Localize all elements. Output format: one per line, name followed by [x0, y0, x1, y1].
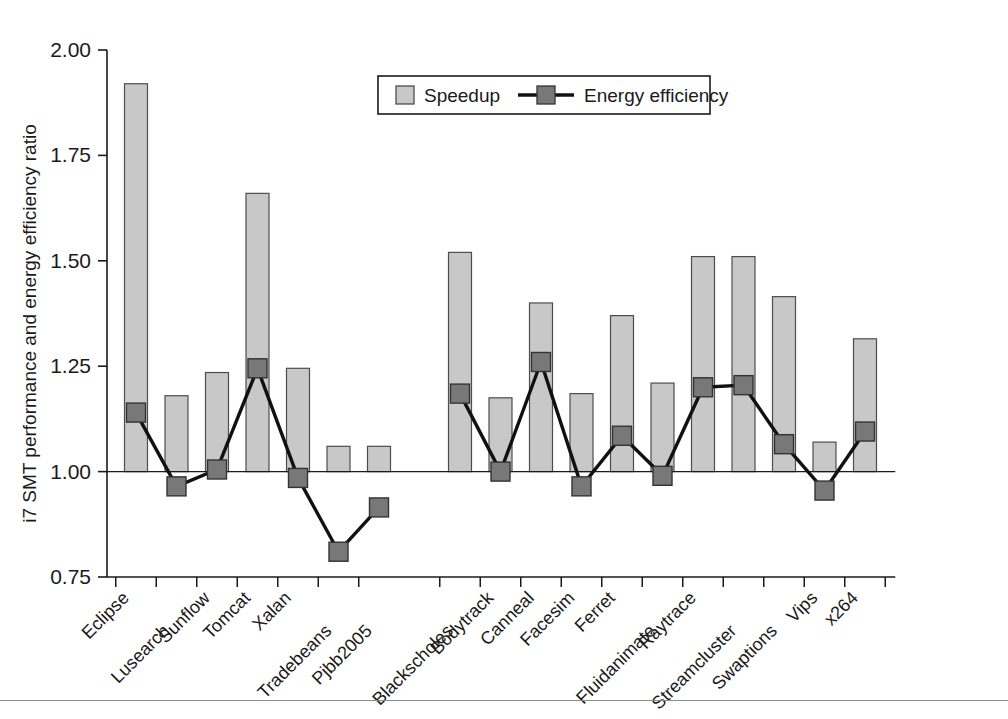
energy-efficiency-marker	[208, 460, 227, 479]
energy-efficiency-marker	[613, 426, 632, 445]
y-axis-tick-label: 1.50	[50, 249, 91, 272]
y-axis-tick-label: 1.25	[50, 354, 91, 377]
legend-energy-swatch	[537, 86, 555, 104]
energy-efficiency-marker	[127, 403, 146, 422]
speedup-bar	[206, 373, 229, 472]
y-axis-tick-label: 2.00	[50, 38, 91, 61]
energy-efficiency-marker	[572, 477, 591, 496]
legend-energy-label: Energy efficiency	[584, 85, 729, 106]
energy-efficiency-marker	[856, 422, 875, 441]
speedup-bar	[692, 257, 715, 472]
y-axis-tick-label: 1.75	[50, 143, 91, 166]
y-axis-tick-label: 0.75	[50, 565, 91, 588]
legend-speedup-label: Speedup	[424, 85, 500, 106]
page-divider-rule	[0, 700, 1008, 701]
energy-efficiency-marker	[289, 468, 308, 487]
speedup-bar	[368, 446, 391, 471]
x-axis-category-label: Ferret	[571, 588, 619, 636]
energy-efficiency-marker	[451, 384, 470, 403]
speedup-bar	[489, 398, 512, 472]
energy-efficiency-marker	[370, 498, 389, 517]
energy-efficiency-marker	[248, 359, 267, 378]
x-axis-category-label: Vips	[783, 588, 822, 627]
energy-efficiency-marker	[734, 376, 753, 395]
speedup-bar	[732, 257, 755, 472]
energy-efficiency-marker	[532, 352, 551, 371]
energy-efficiency-marker	[694, 378, 713, 397]
x-axis-category-label: Eclipse	[78, 588, 133, 643]
energy-efficiency-marker	[653, 466, 672, 485]
x-axis-category-label: Sunflow	[154, 587, 214, 647]
energy-efficiency-marker	[491, 462, 510, 481]
y-axis-title: i7 SMT performance and energy efficiency…	[19, 124, 40, 523]
speedup-bar	[327, 446, 350, 471]
energy-efficiency-marker	[329, 542, 348, 561]
energy-efficiency-marker	[815, 481, 834, 500]
energy-efficiency-marker	[775, 435, 794, 454]
speedup-bar	[165, 396, 188, 472]
speedup-bar	[854, 339, 877, 472]
speedup-bar	[246, 193, 269, 471]
smt-speedup-energy-chart: 0.751.001.251.501.752.00i7 SMT performan…	[0, 0, 1008, 719]
y-axis-tick-label: 1.00	[50, 460, 91, 483]
energy-efficiency-marker	[167, 477, 186, 496]
figure-panel: 0.751.001.251.501.752.00i7 SMT performan…	[0, 0, 1008, 719]
speedup-bar	[813, 442, 836, 472]
speedup-bar	[449, 252, 472, 471]
x-axis-category-label: x264	[820, 588, 862, 630]
legend-speedup-swatch	[396, 86, 414, 104]
x-axis-category-label: Xalan	[248, 588, 295, 635]
